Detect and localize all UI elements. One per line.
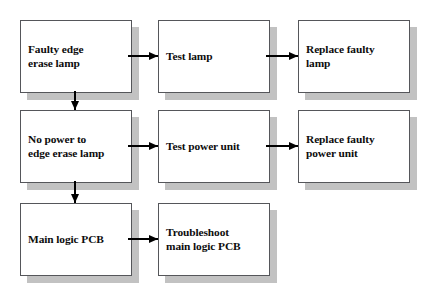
node-body: Troubleshoot main logic PCB: [158, 203, 270, 276]
node-label: Main logic PCB: [21, 233, 108, 247]
node-label: Replace faulty power unit: [299, 133, 379, 160]
arrow-head: [71, 101, 79, 110]
node-label: Test power unit: [159, 140, 244, 154]
arrow-head: [149, 52, 158, 60]
node-label: No power to edge erase lamp: [21, 133, 108, 160]
arrow-head: [149, 142, 158, 150]
arrow-head: [71, 194, 79, 203]
node-body: No power to edge erase lamp: [20, 110, 132, 183]
arrow-right-icon-faulty-lamp-to-test-lamp: [128, 52, 158, 61]
node-body: Replace faulty power unit: [298, 110, 410, 183]
flowchart-node-test-power-unit[interactable]: Test power unit: [158, 110, 270, 183]
node-body: Replace faulty lamp: [298, 20, 410, 93]
flowchart-node-test-lamp[interactable]: Test lamp: [158, 20, 270, 93]
node-label: Troubleshoot main logic PCB: [159, 226, 245, 253]
node-label: Test lamp: [159, 50, 216, 64]
flowchart-diagram: Faulty edge erase lamp Test lamp Replace…: [0, 0, 429, 297]
arrow-right-icon-test-power-unit-to-replace-power-unit: [266, 142, 298, 151]
flowchart-node-replace-faulty-lamp[interactable]: Replace faulty lamp: [298, 20, 410, 93]
arrow-head: [289, 52, 298, 60]
node-label: Replace faulty lamp: [299, 43, 379, 70]
flowchart-node-main-logic-pcb[interactable]: Main logic PCB: [20, 203, 132, 276]
node-body: Test power unit: [158, 110, 270, 183]
flowchart-node-troubleshoot-main-logic-pcb[interactable]: Troubleshoot main logic PCB: [158, 203, 270, 276]
node-body: Faulty edge erase lamp: [20, 20, 132, 93]
arrow-head: [289, 142, 298, 150]
node-label: Faulty edge erase lamp: [21, 43, 88, 70]
arrow-head: [149, 235, 158, 243]
node-body: Test lamp: [158, 20, 270, 93]
arrow-down-icon-no-power-to-main-logic-pcb: [71, 181, 80, 203]
arrow-down-icon-faulty-lamp-to-no-power: [71, 91, 80, 110]
flowchart-node-no-power-to-edge-erase-lamp[interactable]: No power to edge erase lamp: [20, 110, 132, 183]
flowchart-node-faulty-edge-erase-lamp[interactable]: Faulty edge erase lamp: [20, 20, 132, 93]
node-body: Main logic PCB: [20, 203, 132, 276]
flowchart-node-replace-faulty-power-unit[interactable]: Replace faulty power unit: [298, 110, 410, 183]
arrow-right-icon-main-logic-pcb-to-troubleshoot: [128, 235, 158, 244]
arrow-right-icon-no-power-to-test-power-unit: [128, 142, 158, 151]
arrow-right-icon-test-lamp-to-replace-lamp: [266, 52, 298, 61]
